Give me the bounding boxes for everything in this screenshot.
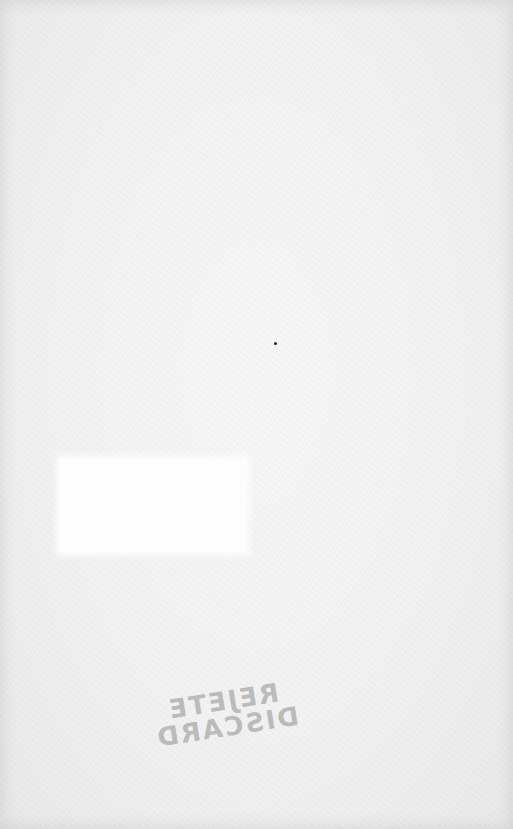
blank-label-area	[59, 458, 247, 553]
ink-dot	[274, 342, 277, 345]
scanned-page: REJETE DISCARD	[0, 0, 513, 829]
